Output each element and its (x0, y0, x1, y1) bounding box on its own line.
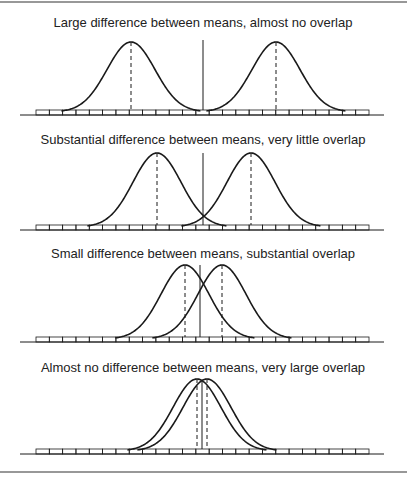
axis-tick-box (209, 337, 222, 342)
axis-tick-box (49, 110, 62, 115)
axis-tick-box (342, 337, 355, 342)
panel-substantial-difference: Substantial difference between means, ve… (20, 132, 384, 230)
axis-tick-box (49, 337, 62, 342)
axis-tick-box (249, 225, 262, 230)
axis-tick-box (249, 110, 262, 115)
axis-tick-box (143, 110, 156, 115)
axis-tick-boxes (36, 449, 369, 454)
axis-tick-box (169, 337, 182, 342)
axis-tick-box (143, 449, 156, 454)
axis-tick-box (316, 449, 329, 454)
axis-tick-box (36, 110, 49, 115)
panel-title: Small difference between means, substant… (51, 246, 355, 261)
axis-tick-box (276, 110, 289, 115)
axis-tick-box (76, 337, 89, 342)
axis-tick-box (103, 225, 116, 230)
axis-tick-box (103, 337, 116, 342)
axis-tick-box (169, 110, 182, 115)
axis-tick-boxes (36, 110, 369, 115)
axis-tick-box (236, 225, 249, 230)
axis-tick-box (129, 225, 142, 230)
axis-tick-box (116, 449, 129, 454)
axis-tick-box (262, 337, 275, 342)
axis-tick-box (183, 110, 196, 115)
axis-tick-box (302, 337, 315, 342)
axis-tick-box (183, 337, 196, 342)
axis-tick-box (329, 225, 342, 230)
axis-tick-box (156, 449, 169, 454)
axis-tick-box (89, 449, 102, 454)
axis-tick-box (196, 337, 209, 342)
axis-tick-box (63, 225, 76, 230)
axis-tick-box (76, 110, 89, 115)
axis-tick-box (222, 110, 235, 115)
axis-tick-box (156, 337, 169, 342)
axis-tick-box (196, 449, 209, 454)
axis-tick-box (329, 449, 342, 454)
axis-tick-box (302, 449, 315, 454)
panel-title: Almost no difference between means, very… (41, 360, 365, 375)
axis-tick-box (89, 110, 102, 115)
axis-tick-box (262, 110, 275, 115)
axis-tick-box (249, 449, 262, 454)
axis-tick-box (302, 225, 315, 230)
axis-tick-box (276, 225, 289, 230)
axis-tick-box (342, 449, 355, 454)
axis-tick-box (156, 225, 169, 230)
panel-small-difference: Small difference between means, substant… (20, 246, 384, 342)
axis-tick-box (183, 449, 196, 454)
axis-tick-box (196, 225, 209, 230)
axis-tick-box (356, 449, 369, 454)
axis-tick-box (356, 110, 369, 115)
axis-tick-box (103, 449, 116, 454)
panel-large-difference: Large difference between means, almost n… (20, 15, 384, 115)
axis-tick-box (316, 337, 329, 342)
axis-tick-box (236, 110, 249, 115)
axis-tick-box (289, 449, 302, 454)
axis-tick-box (36, 225, 49, 230)
axis-tick-box (76, 225, 89, 230)
overlap-figure: Large difference between means, almost n… (0, 0, 407, 480)
axis-tick-box (356, 337, 369, 342)
axis-tick-box (289, 110, 302, 115)
axis-tick-box (63, 449, 76, 454)
axis-tick-box (169, 449, 182, 454)
axis-tick-box (329, 337, 342, 342)
axis-tick-box (236, 337, 249, 342)
axis-tick-box (143, 225, 156, 230)
axis-tick-box (276, 449, 289, 454)
axis-tick-box (76, 449, 89, 454)
axis-tick-box (156, 110, 169, 115)
axis-tick-box (342, 225, 355, 230)
axis-tick-box (209, 225, 222, 230)
axis-tick-box (116, 225, 129, 230)
panel-title: Large difference between means, almost n… (54, 15, 353, 30)
axis-tick-box (262, 225, 275, 230)
axis-tick-box (89, 337, 102, 342)
axis-tick-box (129, 110, 142, 115)
axis-tick-box (129, 337, 142, 342)
axis-tick-box (49, 449, 62, 454)
axis-tick-box (356, 225, 369, 230)
axis-tick-box (169, 225, 182, 230)
axis-tick-box (302, 110, 315, 115)
panel-title: Substantial difference between means, ve… (41, 132, 366, 147)
panel-no-difference: Almost no difference between means, very… (20, 360, 384, 454)
axis-tick-box (116, 110, 129, 115)
axis-tick-boxes (36, 337, 369, 342)
axis-tick-box (222, 449, 235, 454)
axis-tick-box (49, 225, 62, 230)
axis-tick-box (103, 110, 116, 115)
axis-tick-box (316, 110, 329, 115)
axis-tick-box (222, 337, 235, 342)
axis-tick-box (289, 225, 302, 230)
axis-tick-box (236, 449, 249, 454)
axis-tick-box (63, 337, 76, 342)
axis-tick-box (36, 449, 49, 454)
axis-tick-box (209, 449, 222, 454)
axis-tick-box (36, 337, 49, 342)
